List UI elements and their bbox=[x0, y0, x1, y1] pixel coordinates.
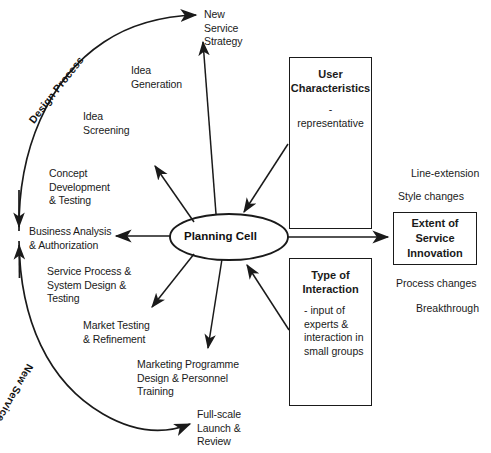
arrow-type-of-interaction-to-cell bbox=[247, 265, 289, 330]
arrow-cell-to-idea-screening bbox=[155, 166, 194, 222]
stage-idea-screening: Idea Screening bbox=[83, 110, 129, 137]
stage-full-scale-launch-review: Full-scale Launch & Review bbox=[197, 408, 241, 449]
type-of-interaction-body: - input of experts & interaction in smal… bbox=[290, 304, 371, 358]
innovation-scale-process-changes: Process changes bbox=[396, 277, 477, 290]
user-characteristics-box: User Characteristics - representative bbox=[289, 57, 372, 229]
innovation-scale-line-extension: Line-extension bbox=[411, 167, 479, 180]
type-of-interaction-title: Type of Interaction bbox=[290, 268, 371, 296]
stage-new-service-strategy: New Service Strategy bbox=[204, 8, 242, 49]
extent-of-service-innovation-box: Extent of Service Innovation bbox=[393, 212, 477, 265]
innovation-scale-style-changes: Style changes bbox=[398, 190, 464, 203]
innovation-scale-breakthrough: Breakthrough bbox=[416, 302, 479, 315]
arrow-user-characteristics-to-cell bbox=[244, 144, 288, 212]
stage-concept-development-testing: Concept Development & Testing bbox=[49, 167, 110, 208]
arrow-cell-to-new-service-strategy bbox=[203, 42, 216, 214]
type-of-interaction-box: Type of Interaction - input of experts &… bbox=[289, 258, 372, 406]
stage-marketing-programme-design-personnel-training: Marketing Programme Design & Personnel T… bbox=[137, 358, 239, 399]
diagram-canvas: Planning Cell Design Process New Service… bbox=[0, 0, 491, 453]
planning-cell-label: Planning Cell bbox=[184, 230, 257, 242]
stage-service-process-system-design-testing: Service Process & System Design & Testin… bbox=[47, 265, 131, 306]
extent-of-service-innovation-title: Extent of Service Innovation bbox=[407, 216, 463, 261]
stage-business-analysis-authorization: Business Analysis & Authorization bbox=[29, 225, 111, 252]
stage-idea-generation: Idea Generation bbox=[131, 64, 182, 91]
arrow-cell-to-market-testing bbox=[152, 254, 194, 307]
user-characteristics-body: - representative bbox=[290, 103, 371, 130]
stage-market-testing-refinement: Market Testing & Refinement bbox=[83, 319, 150, 346]
arrow-cell-to-marketing-programme bbox=[208, 259, 222, 348]
user-characteristics-title: User Characteristics bbox=[290, 67, 371, 95]
